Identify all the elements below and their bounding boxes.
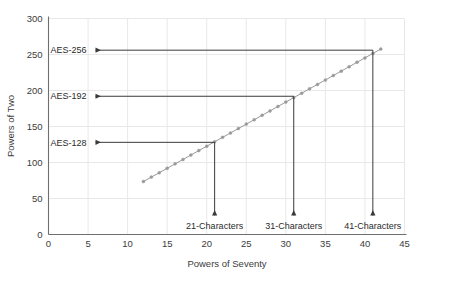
y-tick-label: 200 [27, 85, 43, 96]
series-marker [276, 105, 279, 108]
series-marker [142, 180, 145, 183]
x-tick-label: 45 [399, 238, 410, 249]
chart-container: 051015202530354045 050100150200250300 AE… [0, 0, 454, 281]
x-tick-label: 15 [162, 238, 173, 249]
series-marker [379, 48, 382, 51]
x-tick-label: 10 [122, 238, 133, 249]
y-tick-label: 150 [27, 121, 43, 132]
series-marker [340, 70, 343, 73]
annotation-label-aes-256: AES-256 [51, 45, 87, 55]
x-tick-label: 20 [201, 238, 212, 249]
series-marker [150, 176, 153, 179]
series-marker [253, 118, 256, 121]
series-marker [300, 92, 303, 95]
y-tick-label: 100 [27, 157, 43, 168]
series-marker [356, 61, 359, 64]
series-marker [221, 136, 224, 139]
series-marker [261, 114, 264, 117]
x-tick-label: 30 [281, 238, 292, 249]
series-marker [284, 101, 287, 104]
series-marker [237, 127, 240, 130]
series-marker [166, 167, 169, 170]
series-marker [245, 123, 248, 126]
y-tick-label: 0 [37, 229, 42, 240]
series-marker [181, 158, 184, 161]
x-tick-label: 5 [85, 238, 90, 249]
x-tick-label: 35 [320, 238, 331, 249]
series-marker [316, 83, 319, 86]
series-marker [363, 56, 366, 59]
powers-of-seventy-vs-powers-of-two-chart: 051015202530354045 050100150200250300 AE… [0, 0, 454, 281]
series-marker [174, 162, 177, 165]
annotation-label-aes-128: AES-128 [51, 138, 87, 148]
series-marker [348, 65, 351, 68]
series-marker [158, 171, 161, 174]
annotation-label-aes-192: AES-192 [51, 91, 87, 101]
x-tick-label: 25 [241, 238, 252, 249]
annotation-xlabel-aes-256: 41-Characters [344, 221, 402, 231]
y-axis-title: Powers of Two [5, 95, 16, 157]
y-tick-label: 300 [27, 13, 43, 24]
annotation-xlabel-aes-192: 31-Characters [265, 221, 323, 231]
y-tick-label: 50 [32, 193, 43, 204]
series-marker [269, 109, 272, 112]
x-tick-label: 0 [46, 238, 51, 249]
series-marker [197, 149, 200, 152]
x-axis-title: Powers of Seventy [187, 258, 266, 269]
series-marker [332, 74, 335, 77]
series-marker [308, 87, 311, 90]
series-marker [189, 154, 192, 157]
annotation-xlabel-aes-128: 21-Characters [186, 221, 244, 231]
series-marker [229, 131, 232, 134]
x-tick-label: 40 [360, 238, 371, 249]
series-marker [324, 78, 327, 81]
y-tick-label: 250 [27, 49, 43, 60]
series-marker [205, 145, 208, 148]
